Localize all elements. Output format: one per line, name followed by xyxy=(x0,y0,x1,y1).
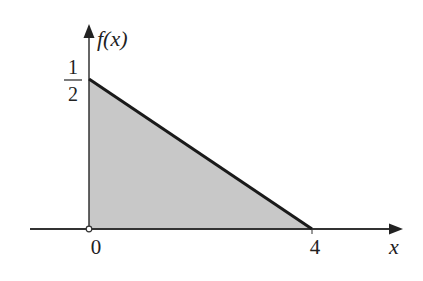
y-tick-numerator: 1 xyxy=(68,56,78,78)
x-tick-0-label: 0 xyxy=(91,235,102,259)
x-axis-arrow-icon xyxy=(389,224,403,235)
density-plot: f(x) x 0 4 1 2 xyxy=(0,0,423,281)
x-tick-4-label: 4 xyxy=(310,235,321,259)
x-axis-label: x xyxy=(388,234,399,259)
y-tick-denominator: 2 xyxy=(68,83,78,105)
y-axis-label: f(x) xyxy=(97,26,128,51)
y-axis-arrow-icon xyxy=(84,24,95,38)
origin-open-circle xyxy=(86,226,92,232)
